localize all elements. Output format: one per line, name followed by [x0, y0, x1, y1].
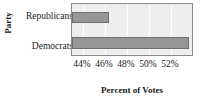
bar-democrats — [72, 37, 189, 49]
category-label-democrats: Democrats — [5, 41, 73, 51]
x-tick-label-52: 52% — [155, 59, 185, 69]
x-axis-title: Percent of Votes — [71, 85, 193, 95]
bar-republicans — [72, 12, 109, 23]
plot-area — [71, 3, 193, 56]
y-axis-title: Party — [3, 1, 13, 45]
category-label-republicans: Republicans — [5, 11, 73, 21]
bar-chart: Party Republicans Democrats 44% 46% 48% … — [0, 0, 201, 106]
